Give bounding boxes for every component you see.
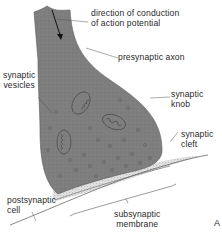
label-presynaptic-axon: presynaptic axon — [118, 53, 185, 63]
label-subsynaptic-membrane: subsynaptic membrane — [114, 210, 160, 229]
label-postsynaptic-cell: postsynaptic cell — [7, 196, 56, 215]
label-synaptic-cleft: synaptic cleft — [181, 130, 213, 149]
label-synaptic-knob: synaptic knob — [171, 90, 203, 109]
presynaptic-terminal — [34, 6, 162, 194]
label-synaptic-vesicles: synaptic vesicles — [3, 71, 35, 90]
panel-letter: A — [214, 219, 220, 229]
label-direction-of-conduction: direction of conduction of action potent… — [91, 9, 179, 28]
